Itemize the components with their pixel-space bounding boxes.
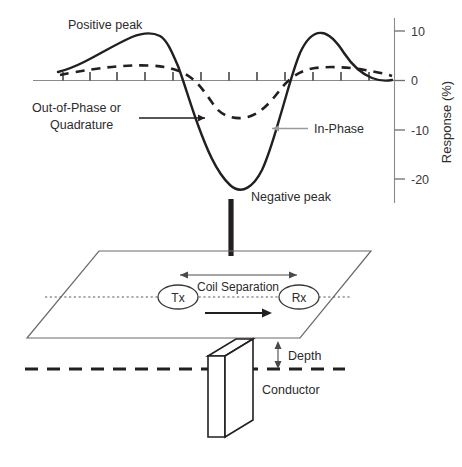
conductor-front-face [225,339,253,437]
em-response-diagram: 10 0 -10 -20 Response (%) Positive peak … [0,0,462,467]
quadrature-label-line1: Out-of-Phase or [32,101,121,115]
depth-label: Depth [288,349,321,363]
rx-coil-label: Rx [292,291,307,305]
coil-separation-label: Coil Separation [197,280,279,294]
y-tick-label-neg10: -10 [411,124,429,138]
y-axis-title: Response (%) [439,81,454,163]
y-tick-label-neg20: -20 [411,173,429,187]
y-tick-label-10: 10 [411,25,425,39]
in-phase-label: In-Phase [314,122,364,136]
positive-peak-label: Positive peak [68,18,143,32]
conductor-label: Conductor [262,383,320,397]
quadrature-label-line2: Quadrature [50,118,113,132]
tx-coil-label: Tx [171,291,184,305]
negative-peak-label: Negative peak [251,190,332,204]
rx-coil: Rx [279,285,319,309]
tx-coil: Tx [158,285,198,309]
y-tick-label-0: 0 [411,74,418,88]
conductor-slab [208,339,253,437]
conductor-side-face [208,356,225,437]
